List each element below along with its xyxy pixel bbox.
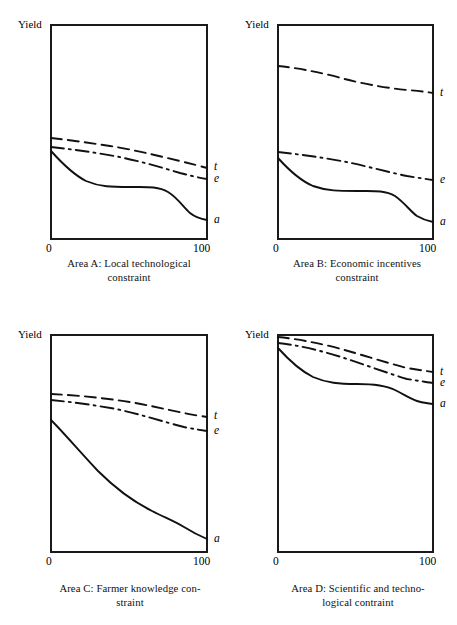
panel-d-caption-line-1: Area D: Scientific and techno- — [268, 582, 448, 596]
panel-d-curve-e — [278, 343, 433, 383]
panel-c-label-t: t — [214, 409, 217, 421]
panel-c: Yield 0 100 t e a — [50, 334, 208, 553]
panel-c-x-tick-max: 100 — [193, 555, 210, 567]
panel-c-label-e: e — [214, 424, 219, 436]
panel-a-plot — [50, 24, 208, 240]
panel-b-curve-e — [278, 152, 433, 180]
panel-c-curve-t — [51, 394, 207, 417]
panel-d-axis-frame — [278, 335, 433, 552]
panel-b-curve-t — [278, 66, 433, 93]
panel-b-x-tick-max: 100 — [419, 242, 436, 254]
panel-b-caption-line-2: constraint — [272, 271, 442, 285]
panel-a-label-t: t — [214, 160, 217, 172]
panel-d-curve-t — [278, 337, 433, 372]
panel-c-label-a: a — [214, 532, 220, 544]
panel-b-label-e: e — [440, 173, 445, 185]
panel-d-label-e: e — [440, 376, 445, 388]
panel-c-x-tick-min: 0 — [46, 555, 52, 567]
figure-root: Yield 0 100 t e a Area A: Local technolo… — [0, 0, 457, 625]
panel-b-label-t: t — [440, 86, 443, 98]
panel-c-axis-frame — [51, 335, 207, 552]
panel-d-plot — [277, 334, 434, 553]
panel-a-y-axis-label: Yield — [18, 18, 42, 30]
panel-b-axis-frame — [278, 25, 433, 239]
panel-a-caption-line-2: constraint — [44, 271, 214, 285]
panel-b-caption: Area B: Economic incentives constraint — [272, 257, 442, 284]
panel-d-label-a: a — [440, 397, 446, 409]
panel-d-y-axis-label: Yield — [245, 328, 269, 340]
panel-d-x-tick-min: 0 — [273, 555, 279, 567]
panel-c-curve-e — [51, 400, 207, 431]
panel-b-caption-line-1: Area B: Economic incentives — [272, 257, 442, 271]
panel-c-caption: Area C: Farmer knowledge con- straint — [40, 582, 220, 609]
panel-b-y-axis-label: Yield — [245, 18, 269, 30]
panel-d: Yield 0 100 t e a — [277, 334, 434, 553]
panel-b-plot — [277, 24, 434, 240]
panel-b-x-tick-min: 0 — [273, 242, 279, 254]
panel-c-caption-line-1: Area C: Farmer knowledge con- — [40, 582, 220, 596]
panel-a-x-tick-min: 0 — [46, 242, 52, 254]
panel-a-x-tick-max: 100 — [193, 242, 210, 254]
panel-b-label-a: a — [440, 215, 446, 227]
panel-a-label-e: e — [214, 172, 219, 184]
panel-a-curve-a — [51, 151, 207, 220]
panel-a: Yield 0 100 t e a — [50, 24, 208, 240]
panel-d-caption: Area D: Scientific and techno- logical c… — [268, 582, 448, 609]
panel-a-caption-line-1: Area A: Local technological — [44, 257, 214, 271]
panel-b: Yield 0 100 t e a — [277, 24, 434, 240]
panel-a-curve-t — [51, 138, 207, 168]
panel-d-x-tick-max: 100 — [419, 555, 436, 567]
panel-a-caption: Area A: Local technological constraint — [44, 257, 214, 284]
panel-c-caption-line-2: straint — [40, 596, 220, 610]
panel-c-plot — [50, 334, 208, 553]
panel-d-caption-line-2: logical contraint — [268, 596, 448, 610]
panel-a-label-a: a — [214, 213, 220, 225]
panel-b-curve-a — [278, 158, 433, 222]
panel-c-y-axis-label: Yield — [18, 328, 42, 340]
panel-c-curve-a — [51, 420, 207, 539]
panel-d-curve-a — [278, 348, 433, 404]
